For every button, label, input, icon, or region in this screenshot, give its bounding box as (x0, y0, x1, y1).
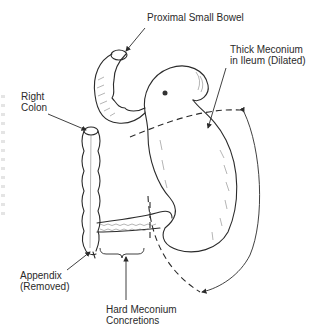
label-text-line2: Colon (21, 102, 47, 113)
label-text: Proximal Small Bowel (147, 12, 244, 23)
label-proximal-small-bowel: Proximal Small Bowel (147, 12, 244, 23)
distal-ileum-concretions (97, 211, 172, 232)
diagram-canvas: Proximal Small Bowel Thick Meconium in I… (0, 0, 309, 331)
label-text-line2: Concretions (106, 315, 177, 326)
label-right-colon: Right Colon (21, 91, 47, 113)
label-appendix: Appendix (Removed) (20, 270, 69, 292)
resection-line-lower (148, 196, 200, 292)
right-colon-shape (82, 127, 100, 258)
label-text-line1: Appendix (20, 270, 69, 281)
proximal-small-bowel-shape (94, 50, 145, 123)
label-hard-meconium: Hard Meconium Concretions (106, 304, 177, 326)
label-text-line1: Thick Meconium (230, 44, 306, 55)
label-text-line2: (Removed) (20, 281, 69, 292)
leader-thick-meconium (208, 68, 226, 128)
label-text-line1: Hard Meconium (106, 304, 177, 315)
label-text-line1: Right (21, 91, 47, 102)
span-arrow (202, 112, 260, 292)
leader-right-colon (48, 114, 86, 130)
leader-appendix (67, 252, 90, 270)
label-text-line2: in Ileum (Dilated) (230, 55, 306, 66)
label-thick-meconium: Thick Meconium in Ileum (Dilated) (230, 44, 306, 66)
dilated-ileum-shape (144, 66, 236, 252)
concretions-bracket (100, 248, 144, 258)
leader-proximal-small-bowel (126, 28, 145, 51)
